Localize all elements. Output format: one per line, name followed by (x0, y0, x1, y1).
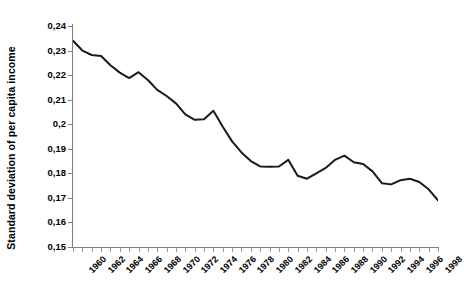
y-axis-tick-label: 0,19 (22, 144, 66, 154)
y-axis-title: Standard deviation of per capita income (0, 0, 22, 296)
x-axis-tick-mark (429, 248, 430, 252)
data-line-series (73, 26, 438, 247)
x-axis-tick-mark (354, 248, 355, 252)
x-axis-tick-label: 1998 (443, 254, 464, 275)
x-axis-tick-mark (410, 248, 411, 252)
x-axis-tick-mark (260, 248, 261, 252)
x-axis-tick-label: 1986 (330, 254, 351, 275)
x-axis-tick-mark (326, 248, 327, 252)
x-axis-tick-mark (438, 248, 439, 252)
y-axis-tick-label: 0,17 (22, 193, 66, 203)
x-axis-tick-mark (391, 248, 392, 252)
x-axis-tick-mark (120, 248, 121, 252)
x-axis-tick-mark (307, 248, 308, 252)
x-axis-tick-mark (92, 248, 93, 252)
x-axis-tick-mark (223, 248, 224, 252)
x-axis-tick-mark (251, 248, 252, 252)
x-axis-tick-mark (270, 248, 271, 252)
x-axis-tick-mark (316, 248, 317, 252)
x-axis-tick-label: 1960 (87, 254, 108, 275)
x-axis-tick-label: 1966 (143, 254, 164, 275)
x-axis-tick-mark (176, 248, 177, 252)
x-axis-tick-mark (204, 248, 205, 252)
x-axis-tick-mark (344, 248, 345, 252)
x-axis-tick-label: 1976 (237, 254, 258, 275)
y-axis-tick-label: 0,18 (22, 168, 66, 178)
x-axis-tick-mark (148, 248, 149, 252)
y-axis-tick-label: 0,22 (22, 70, 66, 80)
x-axis-tick-mark (101, 248, 102, 252)
x-axis-tick-label: 1970 (180, 254, 201, 275)
x-axis-line (72, 247, 439, 248)
y-axis-tick-label: 0,2 (22, 119, 66, 129)
y-axis-tick-label-group: 0,150,160,170,180,190,20,210,220,230,24 (22, 0, 66, 296)
y-axis-tick-label: 0,16 (22, 217, 66, 227)
x-axis-tick-mark (129, 248, 130, 252)
x-axis-tick-label: 1992 (386, 254, 407, 275)
x-axis-tick-label: 1994 (405, 254, 426, 275)
x-axis-tick-label: 1978 (255, 254, 276, 275)
x-axis-tick-label: 1964 (124, 254, 145, 275)
x-axis-tick-mark (335, 248, 336, 252)
x-axis-tick-label: 1996 (424, 254, 445, 275)
x-axis-tick-mark (82, 248, 83, 252)
x-axis-tick-label: 1968 (162, 254, 183, 275)
x-axis-tick-label: 1982 (293, 254, 314, 275)
x-axis-tick-mark (139, 248, 140, 252)
x-axis-tick-label: 1990 (368, 254, 389, 275)
x-axis-tick-label: 1984 (311, 254, 332, 275)
x-axis-tick-mark (419, 248, 420, 252)
x-axis-tick-mark (382, 248, 383, 252)
x-axis-tick-mark (157, 248, 158, 252)
x-axis-tick-label: 1962 (106, 254, 127, 275)
x-axis-tick-label: 1974 (218, 254, 239, 275)
plot-area (73, 26, 438, 247)
x-axis-tick-mark (279, 248, 280, 252)
x-axis-tick-mark (241, 248, 242, 252)
y-axis-tick-label: 0,21 (22, 95, 66, 105)
x-axis-tick-mark (213, 248, 214, 252)
x-axis-tick-mark (363, 248, 364, 252)
x-axis-tick-mark (288, 248, 289, 252)
x-axis-tick-mark (401, 248, 402, 252)
x-axis-tick-label: 1980 (274, 254, 295, 275)
x-axis-tick-mark (232, 248, 233, 252)
y-axis-tick-label: 0,24 (22, 21, 66, 31)
x-axis-tick-mark (185, 248, 186, 252)
x-axis-tick-label: 1972 (199, 254, 220, 275)
x-axis-tick-mark (167, 248, 168, 252)
y-axis-tick-label: 0,23 (22, 46, 66, 56)
x-axis-tick-mark (195, 248, 196, 252)
x-axis-tick-mark (73, 248, 74, 252)
x-axis-tick-mark (110, 248, 111, 252)
x-axis-tick-mark (372, 248, 373, 252)
x-axis-tick-label: 1988 (349, 254, 370, 275)
x-axis-tick-mark (298, 248, 299, 252)
y-axis-tick-label: 0,15 (22, 242, 66, 252)
